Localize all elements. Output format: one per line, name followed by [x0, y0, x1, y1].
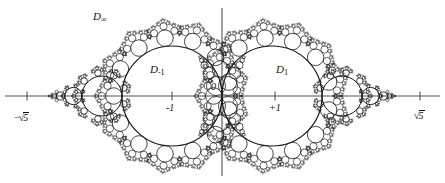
circle-D-plus-1-sat8-s1-s0-s1: [203, 67, 204, 68]
chain-left-0-sat8-s2-s2: [79, 107, 80, 108]
circle-D-plus-1-sat2-s1-s0-s2: [331, 142, 332, 143]
circle-D-plus-1-sat5-s1-s2-s1: [224, 153, 225, 154]
circle-D-minus-1-sat6-s1-s1-s2: [95, 93, 96, 94]
circle-D-minus-1-sat6-s1-s0-s0: [100, 102, 101, 103]
circle-D-minus-1-sat2-s1-s1-s0: [200, 166, 201, 167]
circle-D-minus-1-sat8-s1-s1-s0: [126, 33, 127, 34]
chain-left-1-sat3-s1: [84, 90, 85, 91]
chain-left-0-sat2-s0-s2: [93, 69, 94, 70]
circle-D-plus-1-sat11-s0-s0-s0: [278, 34, 279, 35]
chain-right-0-sat0-s2-s2: [366, 101, 367, 102]
chain-right-3-m3: [391, 93, 393, 95]
circle-D-plus-1-sat6-s1-s2-s0: [203, 126, 204, 127]
circle-D-minus-1-sat7-s1-s1-s0: [103, 61, 104, 62]
circle-D-minus-1-sat12-s2-s0-s1: [244, 88, 245, 89]
circle-D-plus-1-sat12-s0-s1-s2: [313, 38, 314, 39]
circle-D-minus-1-sat8-s0-s0-s0: [125, 55, 126, 56]
circle-D-plus-1-sat5-s1-s0-s1: [235, 160, 236, 161]
circle-D-minus-1-sat7-s2-s0-s0: [112, 55, 113, 56]
circle-D-plus-1-sat1-s2-s1-s0: [335, 126, 336, 127]
chain-left-0-sat7-s1-s2: [95, 124, 96, 125]
circle-D-minus-1-sat4-s2-s0-s1: [122, 149, 123, 150]
circle-D-minus-1-sat10-s1-s1-s0: [197, 23, 198, 24]
label-minus-one: -1: [166, 103, 174, 113]
circle-D-plus-1-sat12-s2-s2-s2: [326, 67, 327, 68]
circle-D-minus-1-sat1-s1-s0-s0: [229, 138, 230, 139]
circle-D-minus-1-sat12-s0-s0-s0: [226, 67, 227, 68]
circle-D-plus-1-sat7-s1-s0-s1: [197, 102, 198, 103]
circle-D-plus-1-sat10-s1-s1-s0: [260, 20, 261, 21]
circle-D-plus-1-sat1-s0-s1-s2: [342, 98, 343, 99]
circle-D-minus-1-sat1-s2-s0-s2: [216, 151, 217, 152]
circle-D-plus-1-sat9-s2-s0-s0: [238, 32, 239, 33]
circle-D-minus-1-sat8-s1-s2-s2: [136, 33, 137, 34]
circle-D-minus-1-sat3-s0-s1-s1: [180, 165, 181, 166]
circle-D-plus-1-sat3-s0-s1-s2: [310, 155, 311, 156]
circle-D-plus-1-sat0-s2-s0-s2: [343, 90, 344, 91]
chain-right-0-sat5-s0-s0: [316, 92, 317, 93]
label-d-infinity: D∞: [93, 11, 107, 24]
chain-left-0-sat0-s0-s1: [75, 101, 76, 102]
chain-left-1-sat2-s2: [77, 85, 78, 86]
circle-D-minus-1-sat4-s2-s1-s0: [120, 144, 121, 145]
circle-D-plus-1-sat12-s2-s0-s1: [332, 55, 333, 56]
chain-right-0-sat1-s1-s1: [364, 115, 365, 116]
circle-D-minus-1-sat9-s1-s2-s2: [169, 23, 170, 24]
circle-D-plus-1-sat4-s2-s0-s2: [251, 164, 252, 165]
circle-D-minus-1-sat2-s1-s1-s1: [199, 168, 200, 169]
circle-D-minus-1-sat0-s1-s0-s0: [243, 106, 244, 107]
circle-D-minus-1-sat7-s2-s0-s2: [114, 52, 115, 53]
circle-D-minus-1-sat9-s1-s1-s2: [164, 19, 165, 20]
circle-D-minus-1-sat0-s1-s1-s2: [245, 116, 246, 117]
circle-D-minus-1-sat2-s2-s0-s0: [189, 164, 190, 165]
circle-D-minus-1-sat1-s1-s1-s1: [229, 147, 230, 148]
circle-D-plus-1-sat3-s1-s2-s1: [292, 167, 293, 168]
chain-left-1-sat6-s1: [65, 105, 66, 106]
chain-right-0-sat6-s2-s0: [331, 69, 332, 70]
circle-D-plus-1-sat1-s2-s0-s1: [339, 122, 340, 123]
circle-D-plus-1-sat9-s1-s2-s0: [232, 31, 233, 32]
circle-D-minus-1-sat5-s0-s2-s2: [112, 135, 113, 136]
chain-left-0-sat7-s1-s1: [96, 125, 97, 126]
circle-D-plus-1-sat4-s0-s2-s1: [273, 168, 274, 169]
circle-D-plus-1-sat3-s1-s0-s2: [302, 164, 303, 165]
chain-right-0-sat2-s2-s0: [342, 123, 343, 124]
circle-D-plus-1-sat11-s1-s0-s1: [292, 24, 293, 25]
chain-left-0-sat7-s2-s0: [93, 122, 94, 123]
chain-right-0-sat8-s2-s1: [366, 83, 367, 84]
circle-D-plus-1-sat9-s1-s0-s0: [225, 40, 226, 41]
circle-D-minus-1-sat11-s1-s1-s0: [227, 43, 228, 44]
circle-D-minus-1-sat5-s1: [106, 125, 113, 132]
circle-D-minus-1-sat6-s0-s2-s1: [99, 105, 100, 106]
circle-D-minus-1-sat7-s1-s0-s0: [105, 68, 106, 69]
circle-D-plus-1-sat3-s0-s2-s2: [304, 159, 305, 160]
circle-D-minus-1-sat1-s2-s1-s0: [213, 152, 214, 153]
circle-D-minus-1-sat12-s1-s2-s1: [245, 84, 246, 85]
chain-left-0-sat3-s1-s0: [114, 69, 115, 70]
circle-D-plus-1-sat2-s0-s2-s2: [330, 136, 331, 137]
circle-D-minus-1-sat7-s2-s1-s0: [117, 50, 118, 51]
circle-D-minus-1-sat5-s1-s1-s1: [103, 131, 104, 132]
circle-D-plus-1-sat7-s0-s2-s1: [199, 105, 200, 106]
chain-right-1-sat3-s2: [359, 99, 360, 100]
chain-right-0-sat4-s0-s0: [320, 109, 321, 110]
chain-left-0-sat4-s2-s1: [129, 92, 130, 93]
chain-right-0-sat0-s2-s0: [369, 99, 370, 100]
chain-left-0-sat5-s2-s2: [123, 109, 124, 110]
circle-D-minus-1-sat4-s1-s2-s2: [125, 151, 126, 152]
chain-left-0-sat7-s0-s2: [101, 123, 102, 124]
circle-D-plus-1-sat9-s1-s0-s2: [225, 36, 226, 37]
circle-D-minus-1-sat6-s1-s1-s0: [95, 97, 96, 98]
circle-D-plus-1-sat7-s0-s2-s0: [201, 107, 202, 108]
circle-D-minus-1-sat6-s1-s0-s1: [97, 102, 98, 103]
circle-D-plus-1-sat6-s0-s2-s2: [212, 135, 213, 136]
circle-D-minus-1-sat4-s1-s1-s1: [127, 159, 128, 160]
circle-D-minus-1-sat10-s1-s2-s0: [202, 27, 203, 28]
chain-left-0-sat2-s2-s1: [102, 68, 103, 69]
circle-D-minus-1-sat0-s0-s2-s1: [244, 103, 245, 104]
circle-D-plus-1-sat11-s1-s1-s2: [300, 24, 301, 25]
chain-left-0-sat6-s1-s0: [117, 120, 118, 121]
chain-left-1-sat2-s1: [75, 84, 76, 85]
circle-D-plus-1-sat12-s0-s0-s0: [306, 45, 307, 46]
circle-D-minus-1-sat7-s0-s0-s0: [112, 81, 113, 82]
